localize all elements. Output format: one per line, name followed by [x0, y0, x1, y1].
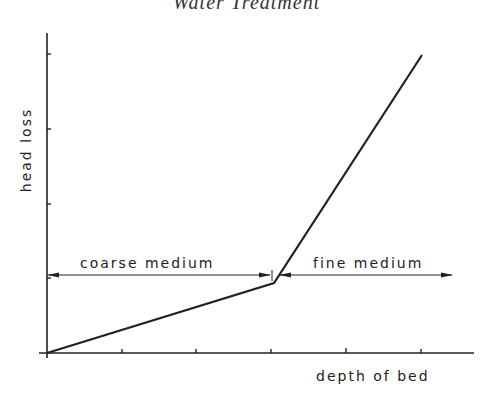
coarse-medium-label: coarse medium	[80, 255, 215, 271]
fine-medium-label: fine medium	[313, 255, 423, 271]
y-axis-label: head loss	[18, 108, 34, 192]
head-loss-line	[47, 55, 422, 353]
head-loss-diagram: head loss depth of bed coarse medium fin…	[0, 0, 493, 396]
x-axis-label: depth of bed	[316, 368, 430, 384]
y-axis	[47, 33, 51, 358]
region-arrows	[48, 270, 452, 281]
x-axis	[39, 348, 474, 353]
